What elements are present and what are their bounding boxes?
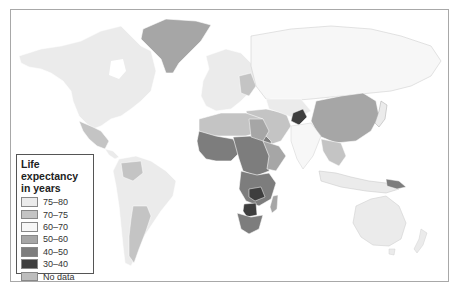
- legend-swatch: [21, 247, 38, 257]
- legend-swatch: [21, 259, 38, 269]
- legend-title-line2: in years: [21, 182, 89, 194]
- legend: Life expectancy in years 75–80 70–75 60–…: [16, 154, 94, 274]
- legend-label: No data: [43, 272, 75, 282]
- argentina: [129, 206, 151, 263]
- legend-swatch: [21, 210, 38, 220]
- legend-label: 30–40: [43, 259, 68, 269]
- legend-title-line1: Life expectancy: [21, 158, 89, 182]
- legend-label: 60–70: [43, 222, 68, 232]
- new-zealand: [414, 229, 427, 253]
- legend-item: 30–40: [21, 258, 89, 270]
- southeast-asia: [321, 139, 346, 166]
- legend-label: 75–80: [43, 197, 68, 207]
- legend-label: 40–50: [43, 247, 68, 257]
- legend-label: 70–75: [43, 210, 68, 220]
- legend-swatch: [21, 197, 38, 207]
- legend-item: 60–70: [21, 221, 89, 233]
- india: [291, 123, 321, 169]
- central-africa: [233, 133, 273, 176]
- legend-swatch: [21, 222, 38, 232]
- legend-item: 75–80: [21, 196, 89, 208]
- china: [311, 93, 379, 143]
- australia: [353, 196, 406, 246]
- russia: [251, 26, 441, 101]
- north-america: [19, 26, 156, 129]
- legend-swatch: [21, 235, 38, 245]
- legend-swatch: [21, 272, 38, 282]
- legend-item: 40–50: [21, 246, 89, 258]
- legend-title: Life expectancy in years: [21, 158, 89, 194]
- legend-label: 50–60: [43, 234, 68, 244]
- botswana: [243, 203, 257, 217]
- legend-item: 70–75: [21, 208, 89, 220]
- legend-item: No data: [21, 270, 89, 282]
- legend-item: 50–60: [21, 233, 89, 245]
